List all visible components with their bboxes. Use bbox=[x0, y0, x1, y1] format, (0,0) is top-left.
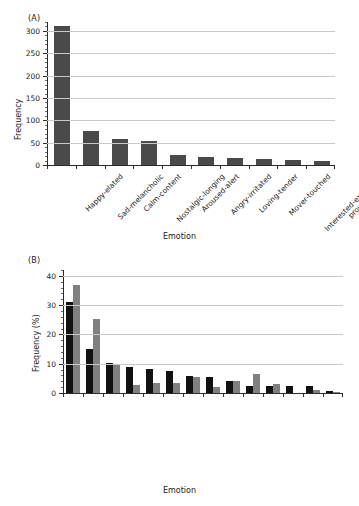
x-tick-mark bbox=[323, 393, 324, 397]
gridline bbox=[47, 120, 335, 121]
y-minor-tick bbox=[61, 352, 63, 353]
y-tick-mark bbox=[43, 143, 47, 144]
y-minor-tick bbox=[45, 71, 47, 72]
panel-a-x-axis-title: Emotion bbox=[0, 232, 359, 241]
bar bbox=[186, 376, 193, 393]
y-minor-tick bbox=[45, 22, 47, 23]
x-tick-mark bbox=[243, 393, 244, 397]
x-tick-mark bbox=[223, 393, 224, 397]
y-minor-tick bbox=[45, 147, 47, 148]
bar bbox=[106, 363, 113, 393]
y-minor-tick bbox=[45, 152, 47, 153]
bar bbox=[213, 387, 220, 393]
x-tick-mark bbox=[249, 165, 250, 169]
gridline bbox=[47, 98, 335, 99]
y-minor-tick bbox=[45, 89, 47, 90]
y-tick-label: 250 bbox=[10, 49, 40, 58]
y-minor-tick bbox=[45, 80, 47, 81]
x-tick-mark bbox=[143, 393, 144, 397]
x-tick-mark bbox=[306, 165, 307, 169]
y-tick-label: 30 bbox=[26, 301, 56, 310]
y-minor-tick bbox=[45, 94, 47, 95]
y-tick-label: 20 bbox=[26, 330, 56, 339]
bar bbox=[233, 381, 240, 393]
y-minor-tick bbox=[61, 381, 63, 382]
x-tick-mark bbox=[220, 165, 221, 169]
y-tick-mark bbox=[59, 364, 63, 365]
bar bbox=[313, 390, 320, 394]
bar bbox=[256, 159, 272, 165]
x-tick-label: Happy-elated bbox=[84, 172, 125, 213]
y-tick-mark bbox=[59, 276, 63, 277]
y-minor-tick bbox=[45, 40, 47, 41]
bar bbox=[173, 383, 180, 393]
y-minor-tick bbox=[45, 67, 47, 68]
x-tick-mark bbox=[63, 393, 64, 397]
bar bbox=[54, 26, 70, 165]
x-tick-mark bbox=[83, 393, 84, 397]
y-minor-tick bbox=[61, 329, 63, 330]
bar bbox=[126, 367, 133, 393]
panel-b: (B) Frequency (%) 010203040 calm-content… bbox=[0, 250, 359, 506]
x-tick-mark bbox=[105, 165, 106, 169]
x-tick-mark bbox=[47, 165, 48, 169]
x-tick-mark bbox=[263, 393, 264, 397]
panel-b-plot-area: 010203040 bbox=[63, 270, 343, 394]
x-tick-mark bbox=[163, 393, 164, 397]
y-tick-label: 200 bbox=[10, 71, 40, 80]
y-minor-tick bbox=[45, 85, 47, 86]
y-minor-tick bbox=[45, 44, 47, 45]
bar bbox=[285, 160, 301, 165]
y-minor-tick bbox=[45, 102, 47, 103]
y-minor-tick bbox=[61, 311, 63, 312]
y-minor-tick bbox=[45, 62, 47, 63]
bar bbox=[227, 158, 243, 165]
x-tick-mark bbox=[203, 393, 204, 397]
y-minor-tick bbox=[45, 161, 47, 162]
panel-a: (A) Frequency 050100150200250300 Happy-e… bbox=[0, 0, 359, 250]
x-tick-mark bbox=[342, 393, 343, 397]
y-minor-tick bbox=[45, 134, 47, 135]
bar bbox=[170, 155, 186, 165]
y-tick-label: 50 bbox=[10, 138, 40, 147]
y-minor-tick bbox=[45, 35, 47, 36]
panel-a-letter: (A) bbox=[28, 14, 40, 23]
y-tick-label: 0 bbox=[26, 389, 56, 398]
y-tick-label: 100 bbox=[10, 116, 40, 125]
bar bbox=[306, 386, 313, 393]
bar bbox=[326, 391, 333, 393]
x-tick-mark bbox=[277, 165, 278, 169]
bar bbox=[206, 377, 213, 393]
y-tick-mark bbox=[59, 334, 63, 335]
x-tick-mark bbox=[283, 393, 284, 397]
y-minor-tick bbox=[61, 270, 63, 271]
y-minor-tick bbox=[61, 358, 63, 359]
bar bbox=[286, 386, 293, 393]
y-tick-label: 150 bbox=[10, 93, 40, 102]
gridline bbox=[47, 53, 335, 54]
y-minor-tick bbox=[45, 156, 47, 157]
y-minor-tick bbox=[45, 111, 47, 112]
y-minor-tick bbox=[45, 116, 47, 117]
y-tick-label: 300 bbox=[10, 26, 40, 35]
bar bbox=[83, 131, 99, 165]
bar bbox=[86, 349, 93, 393]
x-tick-mark bbox=[183, 393, 184, 397]
gridline bbox=[47, 31, 335, 32]
bar bbox=[153, 383, 160, 393]
bar bbox=[253, 374, 260, 393]
x-tick-mark bbox=[334, 165, 335, 169]
panel-b-letter: (B) bbox=[28, 256, 40, 265]
gridline bbox=[63, 305, 343, 306]
y-minor-tick bbox=[61, 282, 63, 283]
bar bbox=[273, 384, 280, 393]
x-tick-mark bbox=[103, 393, 104, 397]
x-tick-mark bbox=[303, 393, 304, 397]
y-minor-tick bbox=[61, 288, 63, 289]
y-minor-tick bbox=[45, 49, 47, 50]
y-minor-tick bbox=[45, 107, 47, 108]
gridline bbox=[63, 334, 343, 335]
y-tick-label: 0 bbox=[10, 161, 40, 170]
y-minor-tick bbox=[61, 317, 63, 318]
x-tick-mark bbox=[133, 165, 134, 169]
